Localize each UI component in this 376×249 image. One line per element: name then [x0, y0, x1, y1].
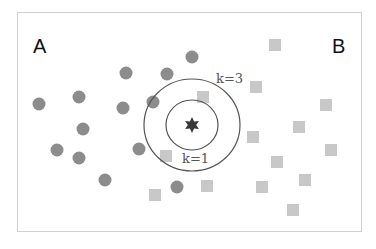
class-b-point — [271, 156, 283, 168]
class-a-point — [133, 143, 146, 156]
class-b-point — [256, 181, 268, 193]
class-b-point — [293, 121, 305, 133]
class-b-point — [149, 189, 161, 201]
class-a-point — [99, 174, 112, 187]
class-a-point — [33, 98, 46, 111]
k3-label: k=3 — [216, 71, 243, 86]
knn-diagram: A B k=3 k=1 — [0, 0, 376, 249]
class-b-point — [247, 131, 259, 143]
class-b-point — [287, 204, 299, 216]
class-b-point — [250, 81, 262, 93]
class-a-label: A — [33, 35, 47, 57]
class-b-label: B — [332, 35, 345, 57]
class-b-point — [269, 39, 281, 51]
class-a-point — [117, 102, 130, 115]
class-b-point — [320, 99, 332, 111]
class-a-point — [73, 91, 86, 104]
class-b-point — [201, 180, 213, 192]
class-a-point — [73, 152, 86, 165]
class-a-point — [171, 181, 184, 194]
class-a-point — [161, 68, 174, 81]
class-a-point — [51, 144, 64, 157]
class-b-point — [325, 144, 337, 156]
k1-label: k=1 — [182, 151, 209, 166]
class-a-point — [186, 51, 199, 64]
class-b-point — [299, 174, 311, 186]
class-a-point — [77, 123, 90, 136]
class-a-point — [120, 67, 133, 80]
